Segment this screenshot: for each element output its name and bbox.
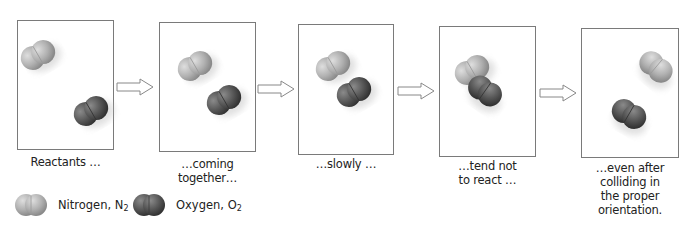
caption-panel-2: …coming together… bbox=[159, 157, 256, 185]
legend-nitrogen: Nitrogen, N2 bbox=[14, 193, 129, 217]
nitrogen-molecule bbox=[16, 34, 66, 80]
nitrogen-molecule-icon bbox=[14, 193, 48, 217]
oxygen-molecule bbox=[69, 90, 119, 136]
legend-oxygen-label: Oxygen, O2 bbox=[176, 198, 242, 213]
oxygen-molecule-icon bbox=[132, 193, 166, 217]
nitrogen-molecule bbox=[631, 46, 681, 95]
caption-panel-5: …even after colliding in the proper orie… bbox=[581, 161, 679, 217]
caption-panel-3: …slowly … bbox=[298, 157, 394, 171]
oxygen-molecule bbox=[202, 79, 252, 125]
legend-nitrogen-label: Nitrogen, N2 bbox=[58, 198, 129, 213]
oxygen-molecule bbox=[604, 95, 654, 141]
caption-panel-1: Reactants … bbox=[17, 155, 114, 169]
legend-oxygen: Oxygen, O2 bbox=[132, 193, 242, 217]
caption-panel-4: …tend not to react … bbox=[439, 159, 536, 187]
nitrogen-molecule bbox=[173, 45, 223, 91]
